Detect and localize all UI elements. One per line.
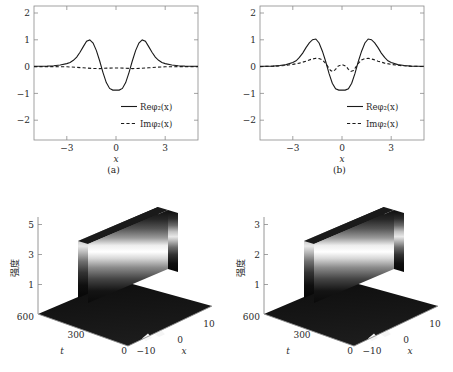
- panel-a-xtick-neg3: −3: [60, 143, 74, 153]
- panel-c-ttick-600: 600: [17, 312, 34, 322]
- panel-c-xtick-10: 10: [203, 319, 215, 329]
- panel-b-legend: Reφ₂(x) Imφ₂(x): [347, 102, 398, 129]
- panel-b-xtick-0: 0: [339, 143, 345, 153]
- panel-d-xtick-10: 10: [429, 319, 441, 329]
- panel-b-y-ticks: [260, 13, 424, 120]
- panel-a-xtick-3: 3: [162, 143, 168, 153]
- panel-d-ttick-600: 600: [243, 312, 260, 322]
- panel-b-xtick-neg3: −3: [286, 143, 300, 153]
- panel-c-ztick-1: 1: [28, 280, 34, 290]
- panel-d-base-plane: [264, 280, 438, 346]
- panel-d-ztick-3: 3: [254, 220, 260, 230]
- panel-b-legend-label-re: Reφ₂(x): [366, 102, 398, 112]
- panel-d-plot: 3 2 1 强度 600 300 0 t −10 0 10 x: [226, 186, 453, 372]
- panel-d-zlabel: 强度: [235, 259, 246, 277]
- panel-d-xtick-0: 0: [403, 335, 409, 345]
- panel-a-ytick-1: 1: [24, 35, 30, 45]
- panel-c-ttick-0: 0: [121, 346, 127, 356]
- panel-c-xtick-neg10: −10: [137, 346, 156, 356]
- panel-c-ztick-5: 5: [28, 220, 34, 230]
- panel-c-plot: 5 3 1 强度 600 300 0 t −10 0 10 x: [0, 186, 227, 372]
- panel-a-caption: (a): [0, 165, 227, 175]
- panel-b-plot: 2 1 0 −1 −2 −3 0 3 x Reφ₂(x): [226, 0, 453, 186]
- panel-d-ztick-1: 1: [254, 280, 260, 290]
- panel-b-ytick-0: 0: [250, 62, 256, 72]
- panel-a-ytick-neg1: −1: [17, 89, 30, 99]
- panel-b-curves: [260, 39, 424, 90]
- figure-panel-grid: 2 1 0 −1 −2 −3 0 3 x: [0, 0, 453, 372]
- panel-b-frame: [260, 6, 424, 140]
- panel-a-ytick-neg2: −2: [17, 115, 30, 125]
- panel-c-ttick-300: 300: [67, 330, 84, 340]
- panel-d: 3 2 1 强度 600 300 0 t −10 0 10 x (d): [226, 186, 453, 372]
- panel-a-legend-label-im: Imφ₂(x): [140, 119, 172, 129]
- panel-b-legend-label-im: Imφ₂(x): [366, 119, 398, 129]
- panel-a-ytick-0: 0: [24, 62, 30, 72]
- panel-a: 2 1 0 −1 −2 −3 0 3 x: [0, 0, 227, 186]
- panel-d-z-ticks: [264, 225, 268, 285]
- panel-d-xtick-neg10: −10: [363, 346, 382, 356]
- panel-c-base-plane: [38, 280, 212, 346]
- panel-b-ytick-neg2: −2: [243, 115, 256, 125]
- panel-c-z-ticks: [38, 225, 42, 285]
- panel-a-frame: [34, 6, 198, 140]
- panel-c-tlabel: t: [60, 346, 64, 356]
- panel-b: 2 1 0 −1 −2 −3 0 3 x Reφ₂(x): [226, 0, 453, 186]
- panel-b-curve-re: [260, 39, 424, 90]
- panel-d-ridge-side: [394, 210, 404, 272]
- panel-b-ytick-1: 1: [250, 35, 256, 45]
- panel-b-xlabel: x: [339, 154, 344, 164]
- panel-c-ridge-side: [168, 210, 178, 272]
- panel-d-ttick-300: 300: [293, 330, 310, 340]
- panel-c-xtick-0: 0: [177, 335, 183, 345]
- panel-a-plot: 2 1 0 −1 −2 −3 0 3 x: [0, 0, 227, 186]
- panel-a-xlabel: x: [113, 154, 118, 164]
- panel-c-ztick-3: 3: [28, 250, 34, 260]
- panel-a-legend-label-re: Reφ₂(x): [140, 102, 172, 112]
- panel-a-curve-im: [34, 67, 198, 69]
- panel-b-xtick-3: 3: [388, 143, 394, 153]
- panel-a-curves: [34, 40, 198, 90]
- panel-c: 5 3 1 强度 600 300 0 t −10 0 10 x (c): [0, 186, 227, 372]
- panel-d-ztick-2: 2: [254, 250, 260, 260]
- panel-b-caption: (b): [226, 165, 453, 175]
- panel-a-curve-re: [34, 40, 198, 90]
- panel-d-xlabel: x: [407, 346, 412, 356]
- panel-a-ytick-2: 2: [24, 8, 30, 18]
- panel-a-xtick-0: 0: [113, 143, 119, 153]
- panel-c-xlabel: x: [181, 346, 186, 356]
- panel-d-tlabel: t: [286, 346, 290, 356]
- panel-c-zlabel: 强度: [9, 259, 20, 277]
- panel-d-ttick-0: 0: [347, 346, 353, 356]
- panel-b-ytick-2: 2: [250, 8, 256, 18]
- panel-a-legend: Reφ₂(x) Imφ₂(x): [121, 102, 172, 129]
- panel-b-ytick-neg1: −1: [243, 89, 256, 99]
